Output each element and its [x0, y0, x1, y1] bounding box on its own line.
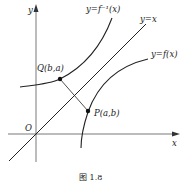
function-label: y=f(x) — [150, 49, 178, 59]
point-p-label: P(a,b) — [93, 108, 120, 118]
inverse-function-diagram: y x O y=f⁻¹(x) y=x y=f(x) Q(b,a) P(a,b) … — [0, 0, 182, 186]
figure-caption: 图 1.8 — [79, 173, 102, 182]
identity-line-label: y=x — [139, 14, 157, 24]
inverse-function-curve — [20, 18, 112, 87]
identity-line — [9, 24, 146, 161]
x-axis-arrow-icon — [172, 132, 180, 137]
y-axis-label: y — [27, 5, 33, 15]
x-axis-label: x — [172, 138, 177, 148]
inverse-function-label: y=f⁻¹(x) — [85, 4, 120, 14]
function-curve — [81, 59, 148, 148]
point-q — [58, 77, 62, 81]
point-q-label: Q(b,a) — [37, 63, 64, 73]
y-axis-arrow-icon — [34, 4, 39, 12]
origin-label: O — [25, 123, 32, 133]
point-p — [86, 109, 90, 113]
y-axis — [34, 4, 39, 162]
